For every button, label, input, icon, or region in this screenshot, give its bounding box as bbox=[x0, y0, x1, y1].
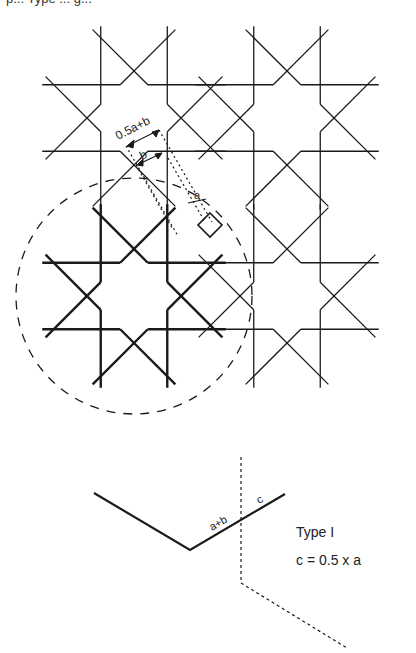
type-label: Type I bbox=[296, 524, 334, 540]
dimension-annotations bbox=[126, 130, 212, 236]
rosette-top-right bbox=[195, 26, 379, 210]
rosette-bottom-left bbox=[42, 204, 226, 388]
highlight-dashed-circle bbox=[16, 178, 252, 414]
bent-segment bbox=[94, 493, 285, 550]
rosette-group bbox=[42, 26, 379, 388]
segment-label-c: c bbox=[254, 492, 265, 505]
highlight-kite bbox=[198, 213, 222, 237]
rosette-bottom-right bbox=[195, 204, 379, 388]
rosette-top-left bbox=[42, 26, 226, 210]
dimension-label-outer: 0.5a+b bbox=[113, 113, 153, 142]
formula: c = 0.5 x a bbox=[296, 552, 361, 568]
dimension-label-a: a bbox=[194, 189, 201, 201]
